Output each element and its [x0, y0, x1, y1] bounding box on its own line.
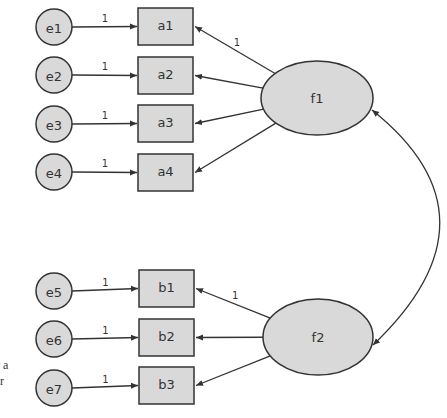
indicator-node-label: b2 [158, 329, 175, 344]
cropped-side-text: or [0, 374, 4, 388]
sem-path-diagram: 1e11e21e31e41e51e61e7a1a2a3a4b1b2b311f1f… [0, 0, 447, 418]
cropped-side-text: r a [0, 358, 9, 372]
error-path-arrow [72, 75, 137, 76]
error-path-arrow [72, 172, 137, 173]
factor-loading-arrow [195, 109, 264, 123]
path-coefficient-label: 1 [102, 13, 108, 24]
error-path-arrow [72, 386, 138, 389]
error-node-label: e7 [46, 382, 62, 397]
error-path-arrow [72, 124, 137, 125]
path-coefficient-label: 1 [102, 277, 108, 288]
indicator-node-label: a3 [157, 115, 173, 130]
indicator-node-label: b3 [158, 377, 175, 392]
loading-coefficient-label: 1 [234, 37, 240, 48]
error-node-label: e2 [46, 69, 62, 84]
indicator-node-label: a2 [157, 67, 173, 82]
error-node-label: e4 [46, 166, 62, 181]
indicator-node-label: b1 [158, 280, 175, 295]
latent-factor-label: f1 [311, 91, 324, 106]
path-coefficient-label: 1 [102, 374, 108, 385]
error-path-arrow [72, 338, 138, 340]
indicator-node-label: a4 [157, 164, 173, 179]
error-node-label: e5 [46, 285, 62, 300]
error-path-arrow [72, 289, 138, 292]
path-coefficient-label: 1 [102, 61, 108, 72]
factor-loading-arrow [195, 27, 275, 74]
indicator-node-label: a1 [157, 18, 173, 33]
factor-loading-arrow [196, 356, 270, 386]
error-node-label: e3 [46, 118, 62, 133]
path-coefficient-label: 1 [102, 110, 108, 121]
error-node-label: e1 [46, 21, 62, 36]
error-node-label: e6 [46, 333, 62, 348]
path-coefficient-label: 1 [102, 158, 108, 169]
latent-factor-label: f2 [312, 330, 325, 345]
factor-loading-arrow [195, 123, 276, 172]
error-path-arrow [72, 27, 137, 28]
loading-coefficient-label: 1 [232, 290, 238, 301]
factor-loading-arrow [195, 76, 263, 89]
path-coefficient-label: 1 [102, 325, 108, 336]
covariance-curve-arrow [372, 110, 440, 345]
